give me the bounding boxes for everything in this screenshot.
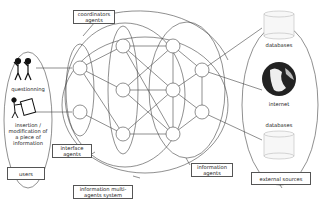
questionning-label: questionning <box>8 86 48 92</box>
coordinator-node-1 <box>116 39 130 53</box>
information-node-3 <box>166 127 180 141</box>
diagram-canvas <box>0 0 319 199</box>
information-node-4 <box>195 63 209 77</box>
external-sources-label: external sources <box>251 172 311 185</box>
interface-agents-label: interface agents <box>52 144 92 158</box>
users-insertion-icon <box>12 98 36 118</box>
multi-agent-system-diagram: coordinators agents interface agents inf… <box>0 0 319 199</box>
users-label: users <box>7 167 45 180</box>
databases-bottom-label: databases <box>262 122 296 128</box>
globe-icon <box>262 62 296 96</box>
database-icon-top <box>264 11 294 39</box>
coordinator-node-2 <box>116 83 130 97</box>
coordinators-agents-label: coordinators agents <box>73 10 115 24</box>
coordinator-node-3 <box>116 127 130 141</box>
interface-node-1 <box>73 61 87 75</box>
interface-ellipse <box>66 44 94 136</box>
information-node-5 <box>195 105 209 119</box>
information-node-2 <box>166 83 180 97</box>
insertion-label: insertion / modification of a piece of i… <box>5 122 51 146</box>
databases-top-label: databases <box>262 42 296 48</box>
interface-node-2 <box>73 105 87 119</box>
database-icon-bottom <box>264 131 294 159</box>
information-agents-label: information agents <box>191 163 233 177</box>
users-questionning-icon <box>14 59 31 81</box>
information-mas-label: information multi- agents system <box>73 185 133 199</box>
information-node-1 <box>166 39 180 53</box>
internet-label: internet <box>262 101 296 107</box>
